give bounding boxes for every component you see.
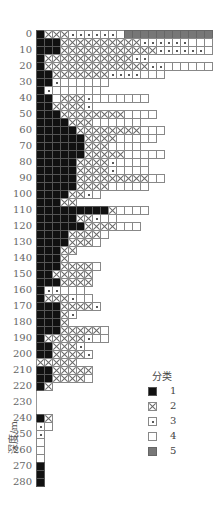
legend-label: 5 bbox=[170, 445, 176, 456]
grid-cell bbox=[68, 246, 77, 255]
white-swatch-icon bbox=[148, 432, 157, 441]
grid-cell bbox=[92, 190, 101, 199]
y-tick-label: 220 bbox=[2, 381, 32, 391]
grid-cell bbox=[100, 78, 109, 87]
legend-item-4: 4 bbox=[148, 430, 172, 445]
grid-cell bbox=[84, 350, 93, 359]
grid-cell bbox=[140, 206, 149, 215]
grid-cell bbox=[44, 422, 53, 431]
grid-cell bbox=[204, 62, 213, 71]
y-tick-label: 230 bbox=[2, 397, 32, 407]
y-tick-label: 120 bbox=[2, 221, 32, 231]
grid-cell bbox=[92, 262, 101, 271]
y-tick-label: 80 bbox=[2, 157, 32, 167]
y-tick-label: 200 bbox=[2, 349, 32, 359]
y-tick-label: 190 bbox=[2, 333, 32, 343]
legend-item-1: 1 bbox=[148, 385, 172, 400]
legend-label: 2 bbox=[170, 400, 176, 411]
depth-classification-chart: 0102030405060708090100110120130140150160… bbox=[0, 0, 223, 508]
grid-cell bbox=[140, 94, 149, 103]
legend-item-5: 5 bbox=[148, 445, 172, 460]
y-tick-label: 130 bbox=[2, 237, 32, 247]
y-tick-label: 20 bbox=[2, 61, 32, 71]
grid-cell bbox=[132, 222, 141, 231]
y-tick-label: 90 bbox=[2, 173, 32, 183]
solid-black-swatch-icon bbox=[148, 387, 157, 396]
grid-cell bbox=[68, 310, 77, 319]
legend-item-3: 3 bbox=[148, 415, 172, 430]
y-tick-label: 10 bbox=[2, 45, 32, 55]
grid-cell bbox=[156, 174, 165, 183]
y-tick-label: 50 bbox=[2, 109, 32, 119]
y-tick-label: 60 bbox=[2, 125, 32, 135]
grid-cell bbox=[156, 150, 165, 159]
grid-cell bbox=[140, 182, 149, 191]
cross-swatch-icon bbox=[148, 402, 157, 411]
y-tick-label: 30 bbox=[2, 77, 32, 87]
legend-label: 1 bbox=[170, 385, 176, 396]
grid-cell bbox=[156, 126, 165, 135]
y-tick-label: 170 bbox=[2, 301, 32, 311]
y-tick-label: 180 bbox=[2, 317, 32, 327]
y-tick-label: 270 bbox=[2, 461, 32, 471]
y-tick-label: 40 bbox=[2, 93, 32, 103]
legend-label: 3 bbox=[170, 415, 176, 426]
grid-cell bbox=[84, 278, 93, 287]
gray-swatch-icon bbox=[148, 447, 157, 456]
legend: 分类 1 2 3 4 5 bbox=[148, 368, 172, 460]
grid-cell bbox=[92, 302, 101, 311]
grid-cell bbox=[44, 382, 53, 391]
dot-swatch-icon bbox=[148, 417, 157, 426]
y-axis-title: 深度/m bbox=[5, 421, 20, 454]
y-tick-label: 70 bbox=[2, 141, 32, 151]
y-tick-label: 160 bbox=[2, 285, 32, 295]
grid-cell bbox=[100, 334, 109, 343]
grid-cell bbox=[36, 478, 45, 487]
grid-cell bbox=[204, 46, 213, 55]
y-tick-label: 280 bbox=[2, 477, 32, 487]
y-tick-label: 0 bbox=[2, 29, 32, 39]
legend-label: 4 bbox=[170, 430, 176, 441]
grid-cell bbox=[156, 70, 165, 79]
y-tick-label: 150 bbox=[2, 269, 32, 279]
y-tick-label: 210 bbox=[2, 365, 32, 375]
legend-item-2: 2 bbox=[148, 400, 172, 415]
grid-cell bbox=[148, 134, 157, 143]
y-tick-label: 140 bbox=[2, 253, 32, 263]
legend-title: 分类 bbox=[152, 368, 172, 383]
grid-cell bbox=[148, 110, 157, 119]
y-tick-label: 100 bbox=[2, 189, 32, 199]
y-tick-label: 110 bbox=[2, 205, 32, 215]
grid-cell bbox=[92, 238, 101, 247]
grid-cell bbox=[100, 230, 109, 239]
grid-cell bbox=[84, 374, 93, 383]
